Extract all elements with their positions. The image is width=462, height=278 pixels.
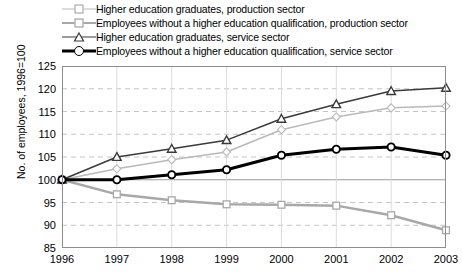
- y-axis-tick-label: 120: [16, 83, 56, 95]
- y-axis-tick-label: 115: [16, 106, 56, 118]
- chart-figure: Higher education graduates, production s…: [0, 0, 462, 278]
- legend-item-he-graduates-service: Higher education graduates, service sect…: [62, 30, 462, 44]
- x-axis-tick-label: 1998: [142, 253, 202, 265]
- diamond-marker-icon: [62, 2, 96, 16]
- x-axis-tick-label: 1999: [197, 253, 257, 265]
- x-axis-ticks: 19961997199819992000200120022003: [0, 253, 462, 269]
- circle-marker-icon: [62, 44, 96, 58]
- y-axis-ticks: 859095100105110115120125: [16, 0, 56, 278]
- legend-label: Higher education graduates, service sect…: [96, 31, 289, 43]
- legend-item-he-graduates-production: Higher education graduates, production s…: [62, 2, 462, 16]
- x-axis-tick-label: 2001: [306, 253, 366, 265]
- x-axis-tick-label: 2003: [416, 253, 462, 265]
- y-axis-tick-label: 110: [16, 128, 56, 140]
- x-axis-tick-label: 1997: [87, 253, 147, 265]
- chart-legend: Higher education graduates, production s…: [62, 2, 462, 58]
- legend-label: Higher education graduates, production s…: [96, 3, 305, 15]
- plot-area: [62, 66, 446, 248]
- y-axis-tick-label: 95: [16, 197, 56, 209]
- x-axis-tick-label: 2000: [251, 253, 311, 265]
- y-axis-tick-label: 105: [16, 151, 56, 163]
- x-axis-tick-label: 2002: [361, 253, 421, 265]
- y-axis-tick-label: 90: [16, 219, 56, 231]
- triangle-marker-icon: [62, 30, 96, 44]
- legend-item-no-he-service: Employees without a higher education qua…: [62, 44, 462, 58]
- y-axis-tick-label: 125: [16, 60, 56, 72]
- plot-border: [62, 66, 446, 248]
- y-axis-tick-label: 100: [16, 174, 56, 186]
- x-axis-tick-label: 1996: [32, 253, 92, 265]
- legend-item-no-he-production: Employees without a higher education qua…: [62, 16, 462, 30]
- square-marker-icon: [62, 16, 96, 30]
- legend-label: Employees without a higher education qua…: [96, 45, 393, 57]
- legend-label: Employees without a higher education qua…: [96, 17, 408, 29]
